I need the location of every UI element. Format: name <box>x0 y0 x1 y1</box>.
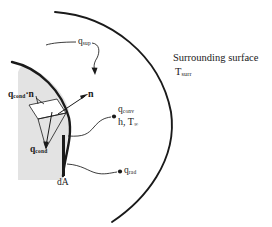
t-surr-subscript: surr <box>181 71 191 77</box>
h-t-base: h, T <box>118 116 134 127</box>
q-sup-subscript: sup <box>83 40 91 46</box>
label-dA: dA <box>57 178 69 188</box>
q-cond-n-suffix: ·n <box>25 89 33 99</box>
label-q-cond: qcond <box>30 145 47 155</box>
h-t-subscript: ∞ <box>134 121 138 127</box>
label-normal-vector: n <box>88 89 94 100</box>
q-cond-n-subscript: cond <box>13 93 25 99</box>
q-conv-subscript: conv <box>123 108 135 114</box>
label-surrounding-surface: Surrounding surface <box>173 52 258 63</box>
q-cond-subscript: cond <box>35 148 47 154</box>
q-rad-subscript: rad <box>129 169 137 175</box>
label-q-conv: qconv <box>118 105 134 115</box>
label-t-surr: Tsurr <box>175 66 192 77</box>
label-q-rad: qrad <box>124 166 136 176</box>
label-q-sup: qsup <box>78 37 91 47</box>
label-q-cond-dot-n: qcond·n <box>8 90 34 100</box>
label-h-t-infinity: h, T∞ <box>118 117 138 128</box>
diagram-canvas <box>0 0 272 227</box>
heat-transfer-diagram: qsup Surrounding surface Tsurr qcond·n n… <box>0 0 272 227</box>
q-conv-leader <box>68 114 116 136</box>
q-rad-leader <box>67 164 122 174</box>
